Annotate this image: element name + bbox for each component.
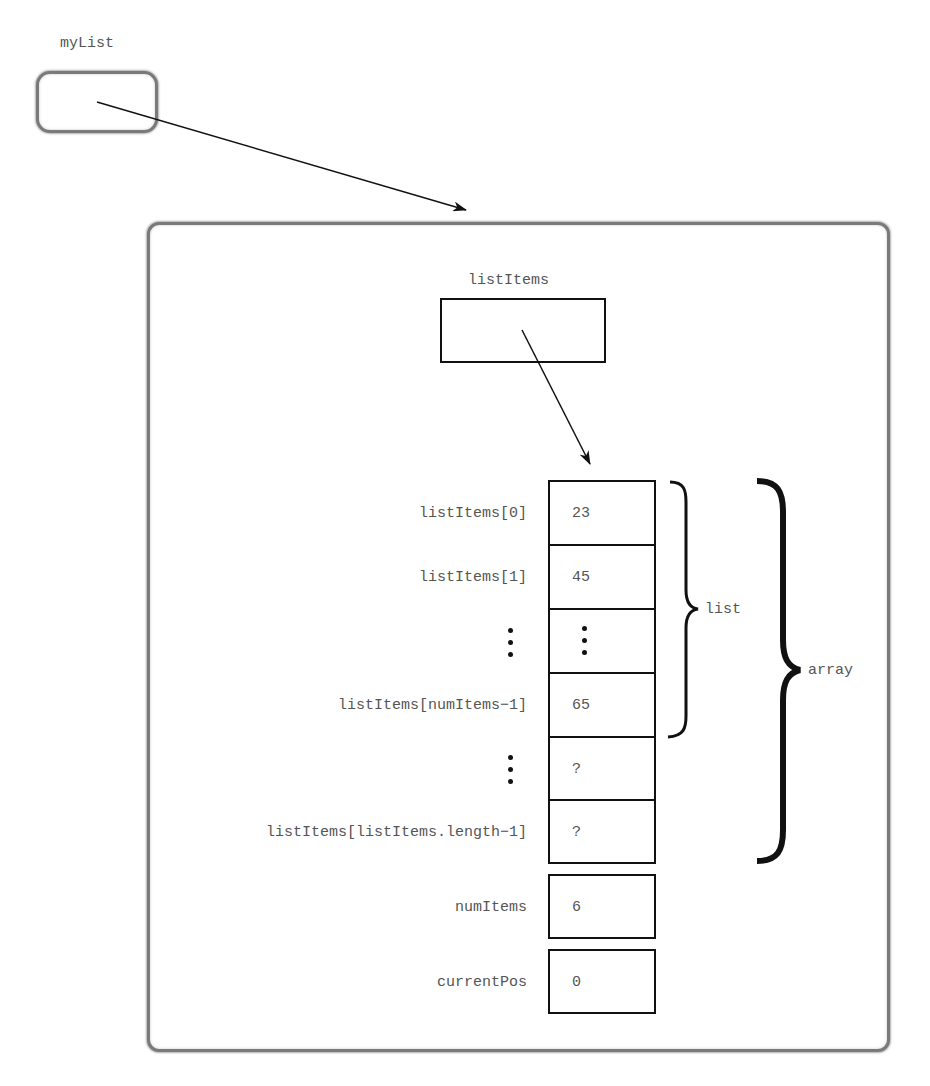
field-value: 0	[572, 974, 581, 989]
currentpos-label: currentPos	[437, 975, 527, 990]
list-brace-label: list	[705, 602, 741, 617]
array-cell-0: 23	[548, 480, 656, 546]
cell-value: 65	[572, 698, 590, 713]
vertical-ellipsis-icon	[508, 628, 514, 664]
vertical-ellipsis-icon	[508, 755, 514, 791]
array-cell-unused: ?	[548, 736, 656, 801]
mylist-reference-box	[36, 71, 158, 133]
index-label-0: listItems[0]	[419, 506, 527, 521]
cell-value: ?	[572, 761, 581, 776]
vertical-ellipsis-icon	[582, 626, 588, 662]
diagram-canvas: myList listItems 23 45 65 ? ? 6 0 listIt…	[0, 0, 930, 1086]
index-label-numitems-minus-1: listItems[numItems−1]	[338, 698, 527, 713]
listitems-reference-box	[440, 298, 606, 363]
array-cell-1: 45	[548, 544, 656, 610]
array-cell-ellipsis	[548, 608, 656, 674]
listitems-field-label: listItems	[468, 273, 549, 288]
array-cell-numitems-minus-1: 65	[548, 672, 656, 738]
cell-value: 45	[572, 570, 590, 585]
index-label-1: listItems[1]	[419, 570, 527, 585]
cell-value: 23	[572, 506, 590, 521]
index-label-last: listItems[listItems.length−1]	[266, 825, 527, 840]
mylist-label: myList	[60, 36, 114, 51]
array-brace-label: array	[808, 663, 853, 678]
field-value: 6	[572, 899, 581, 914]
array-cell-last: ?	[548, 799, 656, 864]
cell-value: ?	[572, 824, 581, 839]
numitems-label: numItems	[455, 900, 527, 915]
numitems-box: 6	[548, 874, 656, 939]
currentpos-box: 0	[548, 949, 656, 1014]
